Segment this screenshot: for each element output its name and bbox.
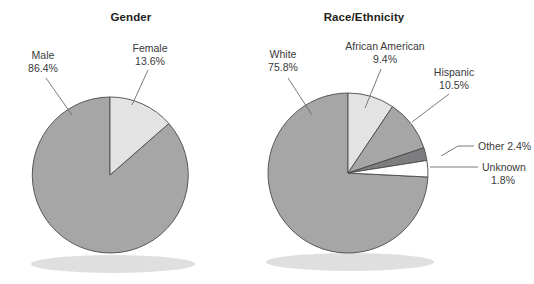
figure-container: Gender Male 86.4% Female 13.6% Race/Ethn… — [0, 0, 534, 284]
pie-value-white: 75.8% — [268, 61, 298, 73]
pie-label-african-american: African American — [345, 40, 425, 52]
leader-line-male — [46, 78, 72, 115]
chart-race-ethnicity: Race/Ethnicity White 75.8% African Ameri — [266, 11, 531, 271]
leader-line-other — [441, 146, 474, 156]
pie-shadow-race-ethnicity — [266, 253, 434, 271]
chart-title-gender: Gender — [111, 11, 152, 23]
pie-value-african-american: 9.4% — [373, 53, 397, 65]
pie-value-unknown: 1.8% — [491, 174, 515, 186]
chart-gender: Gender Male 86.4% Female 13.6% — [28, 11, 195, 273]
pie-label-white: White — [270, 48, 297, 60]
pie-value-hispanic: 10.5% — [439, 79, 469, 91]
pie-label-female: Female — [132, 42, 167, 54]
pie-value-female: 13.6% — [135, 55, 165, 67]
pie-label-male: Male — [32, 49, 55, 61]
pie-label-unknown: Unknown — [482, 161, 526, 173]
pie-label-hispanic: Hispanic — [434, 66, 474, 78]
pie-value-male: 86.4% — [28, 62, 58, 74]
leader-line-hispanic — [412, 94, 449, 122]
pie-shadow-gender — [31, 255, 195, 273]
pie-charts-svg: Gender Male 86.4% Female 13.6% Race/Ethn… — [0, 0, 534, 284]
pie-label-other: Other 2.4% — [478, 140, 531, 152]
chart-title-race-ethnicity: Race/Ethnicity — [324, 11, 405, 23]
leader-line-female — [132, 70, 148, 105]
